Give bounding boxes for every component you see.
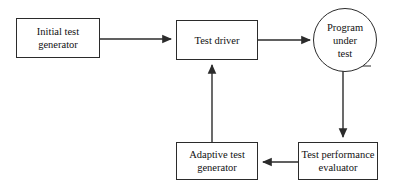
node-test-driver[interactable]: Test driver	[176, 20, 258, 60]
node-label-line: generator	[38, 38, 78, 51]
node-adaptive-test-generator[interactable]: Adaptive test generator	[176, 142, 258, 180]
node-label-line: evaluator	[318, 161, 357, 174]
node-label-line: under	[333, 34, 357, 47]
node-label-line: Adaptive test	[189, 148, 245, 161]
node-label-line: test	[338, 47, 353, 60]
node-program-under-test[interactable]: Program under test	[313, 8, 377, 72]
node-initial-test-generator[interactable]: Initial test generator	[16, 18, 100, 58]
node-label-line: Program	[327, 21, 363, 34]
node-label-line: generator	[197, 161, 237, 174]
node-label-line: Test performance	[301, 148, 374, 161]
node-label-line: Initial test	[37, 25, 79, 38]
node-test-performance-evaluator[interactable]: Test performance evaluator	[298, 142, 378, 180]
diagram-canvas: Initial test generator Test driver Progr…	[0, 0, 394, 192]
node-label-line: Test driver	[194, 34, 239, 47]
